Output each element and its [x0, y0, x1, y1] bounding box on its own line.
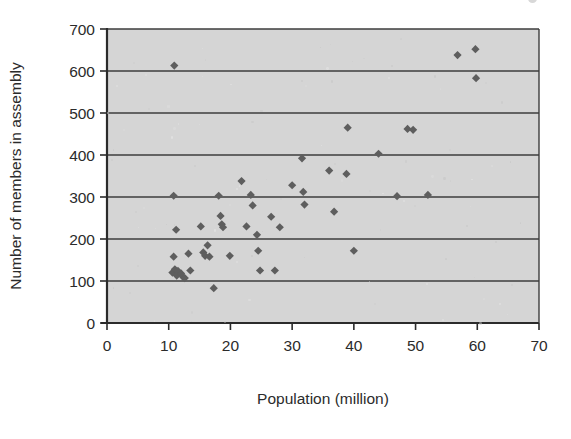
- paper-speckle: [194, 165, 196, 167]
- paper-speckle: [166, 224, 167, 225]
- paper-speckle: [334, 163, 336, 165]
- x-tick-label: 40: [345, 337, 363, 354]
- paper-speckle: [391, 65, 392, 66]
- paper-speckle: [431, 175, 433, 177]
- paper-speckle: [400, 38, 402, 40]
- paper-speckle: [123, 129, 125, 131]
- page-corner-mark: [528, 0, 537, 3]
- y-tick-label: 300: [69, 189, 95, 206]
- page-top-crop: [0, 0, 571, 14]
- paper-speckle: [405, 160, 407, 162]
- paper-speckle: [483, 298, 485, 300]
- y-tick-label: 0: [86, 315, 95, 332]
- paper-speckle: [171, 136, 173, 138]
- paper-speckle: [369, 281, 370, 282]
- paper-speckle: [205, 59, 206, 60]
- y-tick-label: 600: [69, 63, 95, 80]
- paper-speckle: [202, 48, 203, 49]
- paper-speckle: [167, 105, 170, 108]
- paper-speckle: [145, 74, 147, 76]
- paper-speckle: [479, 322, 482, 325]
- paper-speckle: [304, 257, 305, 258]
- paper-speckle: [501, 101, 503, 103]
- paper-speckle: [445, 258, 447, 260]
- y-tick-label: 400: [69, 147, 95, 164]
- plot-area: [107, 29, 539, 323]
- y-tick-label: 100: [69, 273, 95, 290]
- y-tick-label: 200: [69, 231, 95, 248]
- paper-speckle: [374, 303, 376, 305]
- x-tick-label: 20: [222, 337, 240, 354]
- paper-speckle: [173, 127, 175, 129]
- paper-speckle: [251, 121, 253, 123]
- y-tick-label: 700: [69, 21, 95, 38]
- paper-speckle: [251, 255, 253, 257]
- x-tick-label: 70: [530, 337, 548, 354]
- x-tick-label: 60: [469, 337, 487, 354]
- paper-speckle: [388, 77, 390, 79]
- scatter-plot-figure: 010203040506070 0100200300400500600700 P…: [0, 0, 571, 439]
- paper-speckle: [280, 198, 282, 200]
- x-tick-label: 0: [103, 337, 112, 354]
- chart-canvas: 010203040506070 0100200300400500600700 P…: [0, 0, 571, 439]
- paper-speckle: [326, 67, 328, 69]
- paper-speckle: [434, 75, 436, 77]
- paper-speckle: [135, 211, 137, 213]
- paper-speckle: [236, 261, 238, 263]
- x-tick-label: 50: [407, 337, 425, 354]
- paper-speckle: [369, 190, 371, 192]
- x-axis-label: Population (million): [257, 390, 389, 407]
- paper-speckle: [443, 177, 446, 180]
- paper-speckle: [442, 319, 444, 321]
- paper-speckle: [382, 193, 383, 194]
- y-axis-label: Number of members in assembly: [7, 62, 24, 290]
- y-tick-label: 500: [69, 105, 95, 122]
- paper-speckle: [143, 207, 145, 209]
- paper-speckle: [113, 287, 114, 288]
- paper-speckle: [248, 299, 250, 301]
- paper-speckle: [331, 80, 334, 83]
- paper-speckle: [474, 277, 475, 278]
- paper-speckle: [491, 165, 493, 167]
- x-tick-label: 10: [160, 337, 178, 354]
- x-tick-label: 30: [284, 337, 302, 354]
- paper-speckle: [191, 311, 194, 314]
